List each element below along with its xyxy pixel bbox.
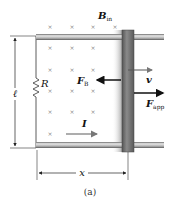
rail-gun-diagram: ×××× ××× ××× ××× ××× × Bin R ℓ x I FB v … <box>0 0 179 208</box>
svg-text:×: × <box>47 108 52 115</box>
svg-text:×: × <box>112 23 117 30</box>
bottom-rail <box>36 142 164 148</box>
field-label: Bin <box>97 10 112 22</box>
figure-caption: (a) <box>84 187 96 197</box>
svg-text:×: × <box>90 66 95 73</box>
top-rail <box>36 34 164 40</box>
bar-shadow <box>112 30 122 152</box>
svg-text:×: × <box>90 44 95 51</box>
svg-text:×: × <box>47 66 52 73</box>
magnetic-force-label: FB <box>76 75 89 87</box>
svg-text:×: × <box>90 87 95 94</box>
svg-text:×: × <box>90 108 95 115</box>
current-label: I <box>81 118 87 129</box>
svg-text:×: × <box>90 23 95 30</box>
velocity-label: v <box>146 74 152 85</box>
applied-force-label: Fapp <box>145 98 165 111</box>
svg-text:×: × <box>69 108 74 115</box>
svg-text:×: × <box>69 66 74 73</box>
svg-text:×: × <box>47 130 52 137</box>
svg-text:×: × <box>69 44 74 51</box>
svg-text:×: × <box>69 87 74 94</box>
resistor-icon <box>33 78 39 97</box>
svg-text:×: × <box>69 23 74 30</box>
resistor-label: R <box>40 78 49 89</box>
length-label: ℓ <box>13 88 17 99</box>
svg-text:×: × <box>47 44 52 51</box>
sliding-bar <box>122 30 134 152</box>
position-label: x <box>79 167 85 178</box>
svg-text:×: × <box>47 23 52 30</box>
